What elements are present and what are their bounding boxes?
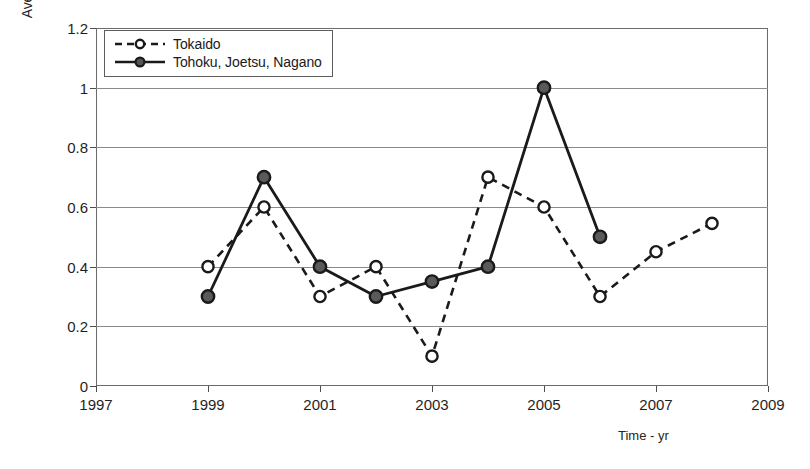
y-tick-label: 0.6 (42, 199, 88, 216)
series-tohoku-joetsu-nagano (202, 81, 606, 302)
x-tickmark (320, 386, 321, 392)
plot-area: Tokaido Tohoku, Joetsu, Nagano (96, 28, 768, 386)
x-tick-label: 2001 (303, 396, 336, 413)
data-point-marker (650, 246, 661, 257)
series-line (208, 177, 712, 356)
chart-legend: Tokaido Tohoku, Joetsu, Nagano (104, 30, 333, 77)
x-tick-label: 1997 (79, 396, 112, 413)
data-point-marker (314, 260, 326, 272)
x-tickmark (432, 386, 433, 392)
data-point-marker (202, 261, 213, 272)
data-point-marker (426, 275, 438, 287)
data-point-marker (594, 291, 605, 302)
data-point-marker (538, 201, 549, 212)
data-point-marker (258, 171, 270, 183)
y-tick-label: 1 (42, 79, 88, 96)
legend-key-dashed-open-circle (113, 35, 167, 53)
x-tickmark (768, 386, 769, 392)
y-tick-label: 0.2 (42, 318, 88, 335)
data-point-marker (258, 201, 269, 212)
y-axis-title: Average delay per service/train - min (16, 0, 38, 68)
y-tickmark (90, 386, 96, 387)
data-series-layer (96, 28, 768, 386)
data-point-marker (370, 261, 381, 272)
data-point-marker (594, 231, 606, 243)
x-axis-title: Time - yr (618, 428, 669, 443)
x-tick-label: 2009 (751, 396, 784, 413)
series-line (208, 88, 600, 297)
data-point-marker (370, 290, 382, 302)
data-point-marker (706, 218, 717, 229)
x-tick-label: 1999 (191, 396, 224, 413)
x-tick-label: 2007 (639, 396, 672, 413)
data-point-marker (482, 172, 493, 183)
legend-key-solid-filled-circle (113, 53, 167, 71)
data-point-marker (426, 351, 437, 362)
x-tick-label: 2005 (527, 396, 560, 413)
x-tickmark (544, 386, 545, 392)
y-tick-label: 1.2 (42, 20, 88, 37)
legend-label-tokaido: Tokaido (167, 36, 221, 52)
data-point-marker (482, 260, 494, 272)
data-point-marker (314, 291, 325, 302)
x-tickmark (656, 386, 657, 392)
data-point-marker (538, 81, 550, 93)
chart-container: Average delay per service/train - min 00… (0, 0, 810, 469)
legend-item-tokaido: Tokaido (113, 35, 322, 53)
y-tick-label: 0.4 (42, 258, 88, 275)
data-point-marker (202, 290, 214, 302)
y-tick-label: 0.8 (42, 139, 88, 156)
x-tick-label: 2003 (415, 396, 448, 413)
x-tickmark (208, 386, 209, 392)
y-tick-label: 0 (42, 378, 88, 395)
x-tickmark (96, 386, 97, 392)
legend-item-tohoku-joetsu-nagano: Tohoku, Joetsu, Nagano (113, 53, 322, 71)
legend-label-tohoku: Tohoku, Joetsu, Nagano (167, 54, 322, 70)
